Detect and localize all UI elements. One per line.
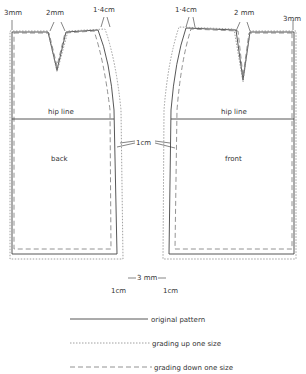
label-front-side-top: 3mm <box>283 15 301 23</box>
label-back-waist-side: 1·4cm <box>93 6 115 14</box>
label-front: front <box>225 155 242 163</box>
legend: original pattern grading up one size gra… <box>70 316 233 372</box>
legend-grading-up: grading up one size <box>152 340 221 348</box>
label-hip-line-back: hip line <box>48 108 74 116</box>
label-hem-center: 3 mm <box>137 274 157 282</box>
label-hip-side: 1cm <box>136 139 151 147</box>
label-hip-line-front: hip line <box>221 108 247 116</box>
label-back-dart: 2mm <box>46 9 64 17</box>
label-front-waist-side: 1·4cm <box>175 6 197 14</box>
legend-grading-down: grading down one size <box>154 364 233 372</box>
back-piece <box>10 29 123 259</box>
label-hem-back-side: 1cm <box>111 287 126 295</box>
label-hem-front-side: 1cm <box>163 287 178 295</box>
front-piece <box>163 27 296 259</box>
label-back: back <box>51 155 69 163</box>
label-front-dart: 2 mm <box>234 9 254 17</box>
legend-original: original pattern <box>151 316 205 324</box>
label-back-side-top: 3mm <box>4 9 22 17</box>
pattern-diagram: 3mm 2mm 1·4cm 1·4cm 2 mm 3mm hip line hi… <box>0 0 306 374</box>
